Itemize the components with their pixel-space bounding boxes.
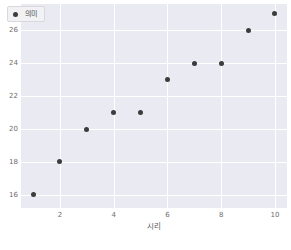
- y-tick-label: 24: [0, 59, 18, 67]
- gridline-vertical: [221, 4, 222, 208]
- y-tick-label: 16: [0, 191, 18, 199]
- x-tick-label: 4: [111, 211, 115, 219]
- data-point: [31, 192, 36, 197]
- x-axis-tick-labels: 246810: [21, 208, 287, 222]
- gridline-vertical: [60, 4, 61, 208]
- legend-marker-icon: [13, 12, 18, 17]
- legend-label: 의미: [25, 10, 37, 18]
- legend: 의미: [7, 6, 45, 22]
- data-point: [138, 110, 143, 115]
- data-point: [246, 28, 251, 33]
- data-point: [57, 159, 62, 164]
- gridline-vertical: [275, 4, 276, 208]
- data-point: [111, 110, 116, 115]
- data-point: [84, 127, 89, 132]
- x-tick-label: 8: [219, 211, 223, 219]
- gridline-vertical: [114, 4, 115, 208]
- data-point: [272, 11, 277, 16]
- y-tick-label: 20: [0, 125, 18, 133]
- x-tick-label: 10: [270, 211, 279, 219]
- plot-area: [21, 4, 287, 208]
- data-point: [165, 77, 170, 82]
- x-axis-label: 시리: [21, 222, 287, 232]
- scatter-chart-figure: 161820222426 246810 시리 의미: [0, 0, 291, 250]
- y-axis-tick-labels: 161820222426: [0, 4, 18, 208]
- data-point: [219, 61, 224, 66]
- y-tick-label: 18: [0, 158, 18, 166]
- x-tick-label: 2: [58, 211, 62, 219]
- y-tick-label: 26: [0, 26, 18, 34]
- y-tick-label: 22: [0, 92, 18, 100]
- data-point: [192, 61, 197, 66]
- gridline-vertical: [167, 4, 168, 208]
- x-tick-label: 6: [165, 211, 169, 219]
